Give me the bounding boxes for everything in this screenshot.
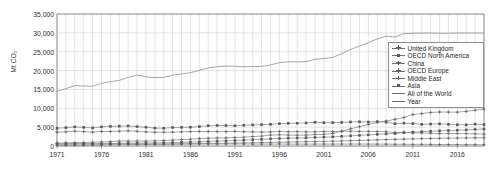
legend-swatch-icon (392, 60, 405, 67)
x-tick-label: 2011 (406, 151, 421, 158)
legend-item[interactable]: OECD Europe (391, 67, 481, 75)
x-tick-label: 2006 (361, 151, 376, 158)
legend-item[interactable]: Year (391, 98, 481, 106)
x-tick-label: 1981 (138, 151, 153, 158)
co2-emissions-line-chart: Mt CO₂ 05,00010,00015,00020,00025,00030,… (0, 0, 489, 174)
legend-item[interactable]: OECD North America (391, 52, 481, 60)
x-tick-label: 1971 (49, 151, 64, 158)
legend-swatch-icon (392, 83, 405, 90)
legend-swatch-icon (392, 45, 405, 52)
legend-item-label: Year (408, 98, 421, 106)
legend-item[interactable]: All of the World (391, 90, 481, 98)
x-tick-label: 1976 (94, 151, 109, 158)
legend: United KingdomOECD North AmericaChinaOEC… (388, 42, 484, 109)
x-tick-label: 2016 (450, 151, 465, 158)
legend-item-label: OECD Europe (408, 67, 449, 75)
x-tick-label: 1986 (183, 151, 198, 158)
legend-item-label: Asia (408, 82, 421, 90)
legend-swatch-icon (392, 98, 405, 105)
legend-swatch-icon (392, 90, 405, 97)
legend-item[interactable]: Asia (391, 82, 481, 90)
legend-item-label: OECD North America (408, 52, 470, 60)
legend-swatch-icon (392, 68, 405, 75)
x-tick-label: 1996 (272, 151, 287, 158)
legend-item-label: United Kingdom (408, 45, 454, 53)
legend-item-label: All of the World (408, 90, 452, 98)
legend-item[interactable]: United Kingdom (391, 45, 481, 53)
legend-swatch-icon (392, 52, 405, 59)
legend-item[interactable]: China (391, 60, 481, 68)
legend-swatch-icon (392, 75, 405, 82)
legend-item-label: China (408, 60, 425, 68)
x-tick-label: 2001 (316, 151, 331, 158)
x-tick-label: 1991 (227, 151, 242, 158)
legend-item[interactable]: Middle East (391, 75, 481, 83)
legend-item-label: Middle East (408, 75, 442, 83)
